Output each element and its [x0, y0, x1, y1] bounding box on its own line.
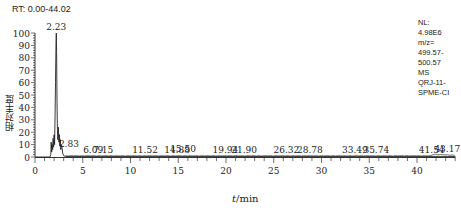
y-tick-label: 30 — [19, 115, 31, 125]
peak-label: 2.83 — [59, 139, 79, 149]
y-tick-label: 0 — [24, 153, 30, 163]
baseline-noise — [66, 154, 455, 156]
x-tick-label: 40 — [411, 166, 423, 176]
y-tick-label: 90 — [19, 41, 31, 51]
y-tick-label: 20 — [19, 128, 31, 138]
y-tick-label: 10 — [19, 140, 31, 150]
x-tick-label: 10 — [125, 166, 137, 176]
x-tick-label: 35 — [364, 166, 376, 176]
chromatogram-plot: 010203040506070809010005101520253035402.… — [0, 0, 461, 210]
x-tick-label: 5 — [80, 166, 86, 176]
x-tick-label: 15 — [173, 166, 185, 176]
peak-label: 43.17 — [434, 144, 460, 154]
peak-label: 26.32 — [273, 145, 299, 155]
y-tick-label: 100 — [13, 29, 30, 39]
y-tick-label: 40 — [19, 103, 31, 113]
peak-label: 15.50 — [170, 144, 196, 154]
x-tick-label: 0 — [32, 166, 38, 176]
x-tick-label: 20 — [220, 166, 232, 176]
peak-label: 11.52 — [132, 145, 158, 155]
y-tick-label: 60 — [19, 78, 31, 88]
peak-label: 2.23 — [46, 22, 66, 32]
peak-label: 35.74 — [363, 145, 389, 155]
chromatogram-trace — [35, 33, 455, 157]
x-tick-label: 30 — [316, 166, 328, 176]
y-tick-label: 50 — [19, 91, 31, 101]
x-tick-label: 25 — [268, 166, 280, 176]
peak-label: 21.90 — [231, 145, 257, 155]
y-tick-label: 70 — [19, 66, 31, 76]
y-tick-label: 80 — [19, 53, 31, 63]
peak-label: 28.78 — [297, 145, 323, 155]
peak-label: 7.15 — [93, 145, 113, 155]
